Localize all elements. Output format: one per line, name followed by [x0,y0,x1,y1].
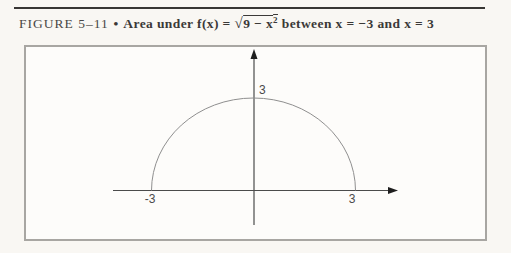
radical-sign: √ [234,15,243,31]
caption-bullet-icon: • [112,16,119,31]
caption-text-after-radical: between x = −3 and x = 3 [282,16,434,31]
x-axis-arrow-icon [388,187,398,194]
figure-plot-box: 3 -3 3 [24,45,487,241]
radicand: 9 − x2 [243,16,278,31]
y-axis-tick-label: 3 [259,83,266,97]
textbook-figure-page: FIGURE 5–11 • Area under f(x) = √9 − x2 … [0,0,511,253]
radicand-base: 9 − x [243,16,273,31]
semicircle-plot: 3 -3 3 [26,47,485,239]
y-axis-arrow-icon [251,49,258,59]
x-right-tick-label: 3 [349,192,356,206]
top-rule-divider [14,7,485,9]
figure-number-label: FIGURE 5–11 [19,16,109,31]
figure-caption: FIGURE 5–11 • Area under f(x) = √9 − x2 … [19,15,499,32]
radicand-exponent: 2 [273,15,278,25]
x-left-tick-label: -3 [145,192,156,206]
caption-text-before-radical: Area under f(x) = [123,16,230,31]
